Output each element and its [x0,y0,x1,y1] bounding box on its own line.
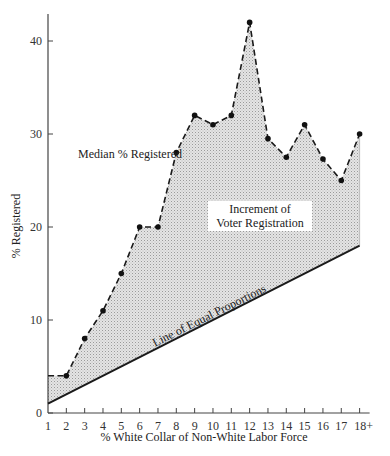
data-point [229,113,235,119]
chart: 010203040123456789101112131415161718+ Me… [0,0,390,456]
data-point [357,131,363,137]
x-tick-label: 16 [317,419,329,433]
data-point [100,308,106,314]
increment-label-line2: Voter Registration [216,216,303,230]
data-point [192,113,198,119]
x-tick-label: 18+ [354,419,373,433]
x-tick-label: 1 [45,419,51,433]
data-point [247,20,253,26]
y-tick-label: 10 [30,313,42,327]
data-point [210,122,216,128]
y-axis-label: % Registered [9,194,23,258]
x-tick-label: 17 [335,419,347,433]
data-point [155,224,161,230]
x-axis-label: % White Collar of Non-White Labor Force [100,430,307,444]
data-point [265,136,271,142]
y-tick-label: 0 [36,406,42,420]
y-tick-label: 30 [30,127,42,141]
x-tick-label: 2 [63,419,69,433]
data-point [64,373,70,379]
data-point [283,154,289,160]
data-point [302,122,308,128]
data-point [338,178,344,184]
increment-label-line1: Increment of [229,202,291,216]
data-point [137,224,143,230]
y-tick-label: 20 [30,220,42,234]
data-point [320,156,326,162]
increment-area [48,22,360,403]
data-point [119,271,125,277]
data-point [82,336,88,342]
median-label: Median % Registered [78,147,182,161]
y-tick-label: 40 [30,34,42,48]
x-tick-label: 3 [82,419,88,433]
increment-shaded-area [48,22,360,403]
